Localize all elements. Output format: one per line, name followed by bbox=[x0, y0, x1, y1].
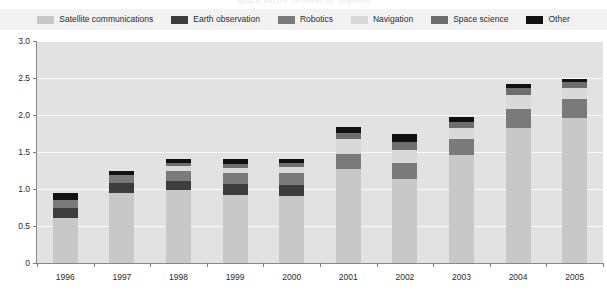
bar-segment[interactable] bbox=[449, 155, 474, 263]
y-tick-label: 3.0 bbox=[18, 36, 30, 46]
legend-item[interactable]: Other bbox=[526, 15, 569, 24]
x-tick-mark bbox=[207, 263, 208, 267]
y-tick-label: 2.5 bbox=[18, 73, 30, 83]
legend-item[interactable]: Satellite communications bbox=[37, 15, 153, 24]
bar-segment[interactable] bbox=[562, 118, 587, 263]
bar-segment[interactable] bbox=[223, 195, 248, 263]
x-tick-mark bbox=[37, 263, 38, 267]
bar-segment[interactable] bbox=[506, 109, 531, 128]
bar-segment[interactable] bbox=[449, 128, 474, 140]
x-tick-mark bbox=[433, 263, 434, 267]
legend-item[interactable]: Robotics bbox=[278, 15, 333, 24]
x-tick-mark bbox=[490, 263, 491, 267]
bar-segment[interactable] bbox=[166, 190, 191, 263]
legend-swatch-icon bbox=[278, 16, 295, 24]
bar-segment[interactable] bbox=[336, 139, 361, 154]
bar-segment[interactable] bbox=[53, 218, 78, 263]
legend-swatch-icon bbox=[171, 16, 188, 24]
bar-segment[interactable] bbox=[53, 208, 78, 218]
bar-segment[interactable] bbox=[336, 169, 361, 263]
legend-item-label: Robotics bbox=[300, 15, 333, 24]
legend-item[interactable]: Navigation bbox=[351, 15, 413, 24]
bar-group[interactable] bbox=[506, 84, 531, 263]
x-tick-label: 2001 bbox=[339, 272, 358, 282]
bar-segment[interactable] bbox=[223, 184, 248, 195]
bar-group[interactable] bbox=[562, 79, 587, 263]
bar-segment[interactable] bbox=[109, 193, 134, 263]
x-tick-mark bbox=[263, 263, 264, 267]
legend-item-label: Satellite communications bbox=[59, 15, 153, 24]
x-tick-label: 2000 bbox=[282, 272, 301, 282]
bar-series-container bbox=[37, 41, 603, 263]
x-tick-label: 2002 bbox=[395, 272, 414, 282]
bar-group[interactable] bbox=[166, 159, 191, 263]
y-tick-label: 0.5 bbox=[18, 221, 30, 231]
x-tick-label: 1996 bbox=[56, 272, 75, 282]
bar-group[interactable] bbox=[279, 159, 304, 263]
bar-group[interactable] bbox=[53, 193, 78, 263]
x-tick-mark bbox=[150, 263, 151, 267]
bar-segment[interactable] bbox=[336, 133, 361, 140]
y-tick-label: 1.0 bbox=[18, 184, 30, 194]
x-tick-label: 1999 bbox=[226, 272, 245, 282]
legend-swatch-icon bbox=[351, 16, 368, 24]
y-tick-label: 0 bbox=[25, 258, 30, 268]
bar-segment[interactable] bbox=[392, 134, 417, 143]
y-tick-label: 2.0 bbox=[18, 110, 30, 120]
page-title: Space sector turnover by segment bbox=[0, 0, 607, 5]
x-tick-label: 1997 bbox=[112, 272, 131, 282]
legend-item-label: Earth observation bbox=[193, 15, 260, 24]
bar-group[interactable] bbox=[109, 171, 134, 263]
x-tick-label: 2005 bbox=[565, 272, 584, 282]
bar-segment[interactable] bbox=[279, 196, 304, 263]
x-tick-label: 2003 bbox=[452, 272, 471, 282]
bar-segment[interactable] bbox=[223, 173, 248, 183]
bar-segment[interactable] bbox=[53, 193, 78, 200]
legend-swatch-icon bbox=[431, 16, 448, 24]
chart-area: 3.02.52.01.51.00.50 19961997199819992000… bbox=[0, 30, 607, 291]
bar-group[interactable] bbox=[392, 134, 417, 263]
x-tick-label: 2004 bbox=[509, 272, 528, 282]
bar-segment[interactable] bbox=[166, 181, 191, 191]
legend-item[interactable]: Earth observation bbox=[171, 15, 260, 24]
bar-segment[interactable] bbox=[506, 95, 531, 109]
bar-segment[interactable] bbox=[506, 88, 531, 95]
x-tick-mark bbox=[94, 263, 95, 267]
bar-segment[interactable] bbox=[109, 175, 134, 183]
bar-segment[interactable] bbox=[336, 154, 361, 169]
x-tick-mark bbox=[603, 263, 604, 267]
x-tick-mark bbox=[546, 263, 547, 267]
title-strip: Space sector turnover by segment bbox=[0, 0, 607, 9]
chart-legend: Satellite communicationsEarth observatio… bbox=[0, 9, 607, 30]
bar-segment[interactable] bbox=[109, 183, 134, 193]
bar-segment[interactable] bbox=[279, 173, 304, 184]
bar-segment[interactable] bbox=[506, 128, 531, 263]
bar-group[interactable] bbox=[223, 159, 248, 263]
bar-group[interactable] bbox=[336, 127, 361, 263]
legend-item-label: Other bbox=[548, 15, 569, 24]
legend-swatch-icon bbox=[526, 16, 543, 24]
legend-item-label: Navigation bbox=[373, 15, 413, 24]
bar-segment[interactable] bbox=[392, 179, 417, 263]
bar-segment[interactable] bbox=[279, 167, 304, 174]
bar-segment[interactable] bbox=[53, 200, 78, 208]
legend-swatch-icon bbox=[37, 16, 54, 24]
plot-region: 3.02.52.01.51.00.50 19961997199819992000… bbox=[36, 41, 603, 264]
bar-segment[interactable] bbox=[392, 142, 417, 149]
y-tick-label: 1.5 bbox=[18, 147, 30, 157]
legend-item[interactable]: Space science bbox=[431, 15, 508, 24]
x-tick-mark bbox=[320, 263, 321, 267]
bar-segment[interactable] bbox=[562, 99, 587, 118]
x-tick-label: 1998 bbox=[169, 272, 188, 282]
bar-segment[interactable] bbox=[562, 88, 587, 99]
bar-segment[interactable] bbox=[392, 150, 417, 163]
bar-segment[interactable] bbox=[279, 185, 304, 196]
legend-item-label: Space science bbox=[453, 15, 508, 24]
bar-segment[interactable] bbox=[392, 163, 417, 179]
bar-segment[interactable] bbox=[166, 171, 191, 181]
bar-group[interactable] bbox=[449, 117, 474, 263]
bar-segment[interactable] bbox=[449, 139, 474, 155]
x-tick-mark bbox=[377, 263, 378, 267]
